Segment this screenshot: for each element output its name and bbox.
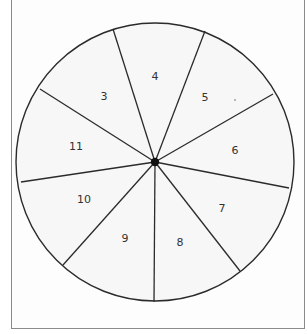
section-label: 6 [232, 144, 239, 157]
section-label: 3 [101, 90, 108, 103]
section-label: 5 [202, 91, 209, 104]
wheel-hub [151, 158, 159, 166]
section-label: 7 [219, 202, 226, 215]
section-label: 11 [69, 140, 83, 153]
section-label: 9 [122, 232, 129, 245]
section-label: 8 [177, 236, 184, 249]
section-label: 10 [77, 193, 91, 206]
stray-mark [234, 99, 236, 101]
section-label: 4 [152, 70, 159, 83]
spinner-wheel: 45678910113 [0, 0, 308, 334]
